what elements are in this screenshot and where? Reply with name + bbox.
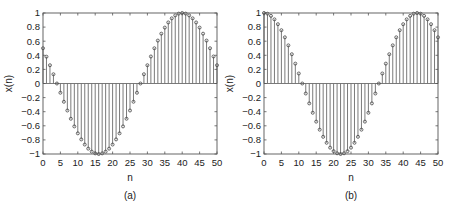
y-tick-label: 0.8 [248,21,261,32]
y-tick-label: −1 [29,148,40,159]
stem-plot-figure: 05101520253035404550−1−0.8−0.6−0.4−0.200… [0,0,450,208]
x-tick-label: 5 [279,157,284,168]
x-tick-label: 25 [125,157,136,168]
x-axis-label: n [127,172,133,183]
y-axis-label: x(n) [3,75,14,92]
x-tick-label: 50 [433,157,444,168]
y-tick-label: 0.2 [27,64,40,75]
x-tick-label: 50 [212,157,223,168]
x-tick-label: 40 [398,157,409,168]
y-tick-label: −0.6 [242,120,261,131]
x-tick-label: 35 [160,157,171,168]
x-axis-label: n [348,172,354,183]
x-tick-label: 0 [261,157,266,168]
x-tick-label: 45 [194,157,205,168]
y-tick-label: −0.6 [21,120,40,131]
x-tick-label: 5 [58,157,63,168]
y-tick-label: 0.2 [248,64,261,75]
y-tick-label: 1 [35,7,40,18]
y-axis-label: x(n) [224,75,235,92]
y-tick-label: 0.6 [248,36,261,47]
y-tick-label: −0.2 [21,92,40,103]
x-tick-label: 35 [381,157,392,168]
y-tick-label: −0.4 [21,106,40,117]
y-tick-label: 0 [35,78,40,89]
x-tick-label: 10 [73,157,84,168]
y-tick-label: −0.4 [242,106,261,117]
y-tick-label: −0.8 [21,134,40,145]
x-tick-label: 30 [363,157,374,168]
y-tick-label: 0.8 [27,21,40,32]
x-tick-label: 45 [415,157,426,168]
x-tick-label: 10 [294,157,305,168]
x-tick-label: 15 [90,157,101,168]
panel-b: 05101520253035404550−1−0.8−0.6−0.4−0.200… [224,7,443,201]
x-tick-label: 25 [346,157,357,168]
panel-a: 05101520253035404550−1−0.8−0.6−0.4−0.200… [3,7,222,201]
x-ticks: 05101520253035404550 [261,13,443,168]
x-tick-label: 40 [177,157,188,168]
x-tick-label: 30 [142,157,153,168]
x-tick-label: 0 [40,157,45,168]
x-tick-label: 15 [311,157,322,168]
y-tick-label: 0 [256,78,261,89]
y-tick-label: 0.4 [248,50,261,61]
panel-caption: (b) [345,190,357,201]
y-tick-label: 0.4 [27,50,40,61]
y-tick-label: −0.8 [242,134,261,145]
y-tick-label: −1 [250,148,261,159]
x-tick-label: 20 [107,157,118,168]
x-tick-label: 20 [328,157,339,168]
y-tick-label: −0.2 [242,92,261,103]
y-tick-label: 0.6 [27,36,40,47]
y-tick-label: 1 [256,7,261,18]
panel-caption: (a) [124,190,136,201]
